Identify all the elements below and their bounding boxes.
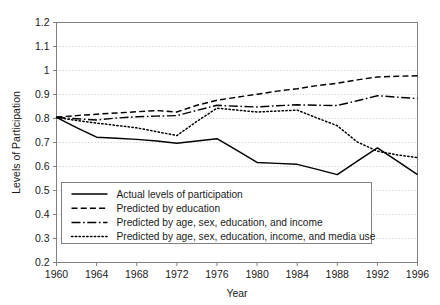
y-tick-label: 0.8 [35, 112, 50, 124]
y-tick-label: 1 [44, 64, 50, 76]
x-tick-label: 1988 [326, 268, 350, 280]
y-tick-label: 0.6 [35, 160, 50, 172]
x-tick-label: 1984 [285, 268, 309, 280]
chart-figure: 0.20.30.40.50.60.70.80.911.11.2 19601964… [0, 0, 440, 305]
x-tick-label: 1996 [406, 268, 430, 280]
y-tick-label: 0.5 [35, 184, 50, 196]
y-tick-label: 1.1 [35, 40, 50, 52]
y-tick-label: 0.9 [35, 88, 50, 100]
x-axis-title: Year [226, 287, 248, 299]
x-tick-label: 1972 [165, 268, 189, 280]
y-tick-label: 0.2 [35, 256, 50, 268]
x-tick-label: 1964 [85, 268, 109, 280]
x-tick-label: 1992 [366, 268, 390, 280]
y-tick-label: 0.4 [35, 208, 50, 220]
y-axis-title: Levels of Participation [10, 91, 22, 194]
x-tick-label: 1980 [245, 268, 269, 280]
y-tick-label: 0.7 [35, 136, 50, 148]
legend-label-1: Predicted by education [117, 203, 221, 214]
y-tick-label: 1.2 [35, 16, 50, 28]
chart-background [0, 0, 440, 305]
x-tick-label: 1968 [125, 268, 149, 280]
x-tick-label: 1976 [205, 268, 229, 280]
legend-label-2: Predicted by age, sex, education, and in… [117, 217, 323, 228]
x-tick-label: 1960 [45, 268, 69, 280]
line-chart: 0.20.30.40.50.60.70.80.911.11.2 19601964… [0, 0, 440, 305]
legend-label-0: Actual levels of participation [117, 189, 243, 200]
y-tick-label: 0.3 [35, 232, 50, 244]
legend-label-3: Predicted by age, sex, education, income… [117, 231, 376, 242]
chart-legend: Actual levels of participationPredicted … [62, 183, 376, 244]
